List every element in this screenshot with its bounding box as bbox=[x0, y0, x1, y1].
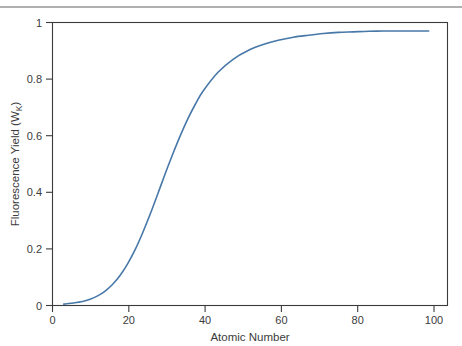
y-tick-label: 0.6 bbox=[27, 130, 42, 142]
y-tick-label: 1 bbox=[36, 17, 42, 29]
plot-area: 1 0.8 0.6 0.4 0.2 0 0 20 40 60 80 100 At… bbox=[0, 0, 462, 346]
y-tick-label: 0 bbox=[36, 300, 42, 312]
x-tick-labels: 0 20 40 60 80 100 bbox=[49, 314, 443, 326]
y-tick-label: 0.8 bbox=[27, 73, 42, 85]
x-tick-label: 40 bbox=[199, 314, 211, 326]
x-tick-label: 20 bbox=[123, 314, 135, 326]
y-axis-ticks bbox=[46, 23, 53, 306]
fluorescence-yield-curve bbox=[64, 31, 429, 304]
y-axis-title-main: Fluorescence Yield (W bbox=[9, 111, 21, 226]
axes-frame bbox=[53, 23, 448, 306]
y-tick-label: 0.4 bbox=[27, 186, 42, 198]
x-tick-label: 80 bbox=[352, 314, 364, 326]
y-tick-labels: 1 0.8 0.6 0.4 0.2 0 bbox=[27, 17, 42, 312]
x-axis-title: Atomic Number bbox=[210, 331, 289, 343]
y-axis-title-suffix: ) bbox=[9, 102, 21, 106]
fluorescence-yield-figure: 1 0.8 0.6 0.4 0.2 0 0 20 40 60 80 100 At… bbox=[0, 0, 462, 346]
y-tick-label: 0.2 bbox=[27, 243, 42, 255]
x-tick-label: 60 bbox=[275, 314, 287, 326]
x-tick-label: 0 bbox=[49, 314, 55, 326]
y-axis-title: Fluorescence Yield (WK) bbox=[9, 102, 24, 227]
x-axis-ticks bbox=[53, 306, 435, 313]
x-tick-label: 100 bbox=[425, 314, 443, 326]
